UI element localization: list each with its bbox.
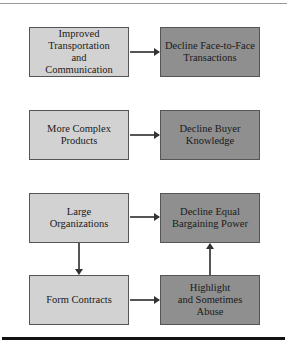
arrow-right-icon: [130, 299, 159, 301]
node-decline-face-to-face: Decline Face-to-Face Transactions: [160, 27, 260, 77]
arrow-down-icon: [78, 243, 80, 274]
node-improved-transportation: Improved Transportation and Communicatio…: [29, 27, 129, 77]
bottom-rule: [2, 337, 285, 340]
arrow-right-icon: [130, 51, 159, 53]
node-more-complex-products: More Complex Products: [29, 110, 129, 160]
arrow-right-icon: [130, 134, 159, 136]
node-form-contracts: Form Contracts: [29, 275, 129, 325]
arrow-up-icon: [209, 244, 211, 275]
node-large-organizations: Large Organizations: [29, 193, 129, 243]
top-rule: [0, 3, 287, 4]
node-decline-buyer-knowledge: Decline Buyer Knowledge: [160, 110, 260, 160]
node-highlight-and-sometimes-abuse: Highlight and Sometimes Abuse: [160, 275, 260, 325]
arrow-right-icon: [130, 216, 159, 218]
node-decline-equal-bargaining-power: Decline Equal Bargaining Power: [160, 193, 260, 243]
